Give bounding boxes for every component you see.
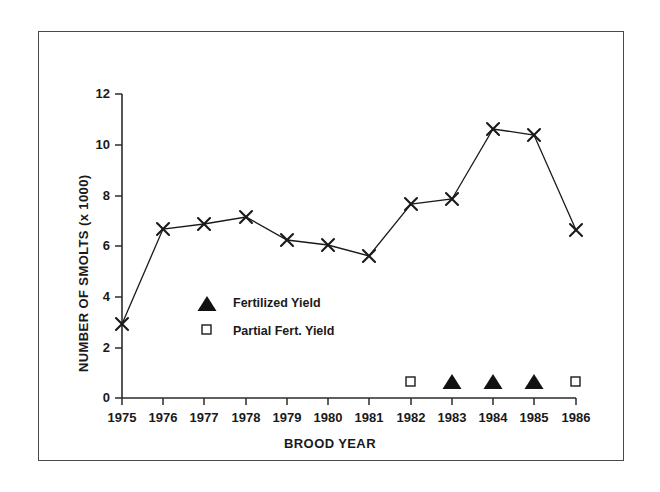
legend-open-square-icon [202, 325, 211, 334]
y-tick-label-10: 10 [80, 137, 110, 152]
y-tick-label-0: 0 [80, 390, 110, 405]
x-tick-label-1986: 1986 [553, 410, 599, 425]
x-tick-label-1976: 1976 [140, 410, 186, 425]
legend-filled-triangle-icon [198, 296, 217, 311]
x-tick-label-1983: 1983 [429, 410, 475, 425]
smolt-series-line [122, 129, 576, 324]
x-tick-label-1975: 1975 [99, 410, 145, 425]
legend-label-partial-fert-yield: Partial Fert. Yield [233, 324, 334, 338]
y-axis-ticks [115, 94, 122, 398]
x-tick-label-1984: 1984 [470, 410, 516, 425]
legend-label-fertilized-yield: Fertilized Yield [233, 296, 321, 310]
y-axis-title: NUMBER OF SMOLTS (x 1000) [76, 174, 91, 372]
fertilized-marker-1983 [443, 374, 462, 389]
x-tick-label-1978: 1978 [223, 410, 269, 425]
x-tick-label-1980: 1980 [305, 410, 351, 425]
fertilized-marker-1984 [484, 374, 503, 389]
chart-figure: 12 10 8 6 4 2 0 1975 1976 1977 1978 1979… [0, 0, 660, 492]
partial-fert-marker-1986 [571, 377, 580, 386]
fertilized-marker-1985 [525, 374, 544, 389]
y-tick-label-12: 12 [80, 86, 110, 101]
x-axis-title: BROOD YEAR [0, 436, 660, 451]
x-axis-ticks [122, 398, 576, 405]
x-tick-label-1977: 1977 [181, 410, 227, 425]
x-tick-label-1982: 1982 [388, 410, 434, 425]
partial-fert-marker-1982 [406, 377, 415, 386]
x-tick-label-1985: 1985 [511, 410, 557, 425]
x-tick-label-1981: 1981 [346, 410, 392, 425]
x-tick-label-1979: 1979 [264, 410, 310, 425]
